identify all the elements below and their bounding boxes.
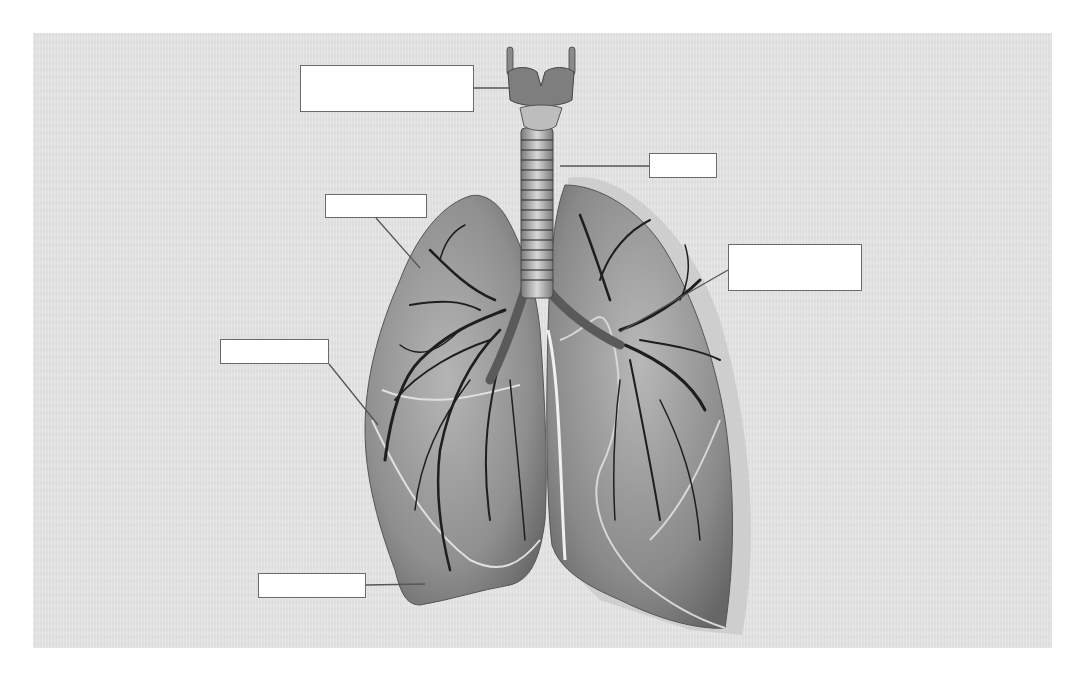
label-box-larynx[interactable] — [300, 65, 474, 112]
trachea — [521, 128, 553, 298]
label-box-bottom-left[interactable] — [258, 573, 366, 598]
label-box-upper-right[interactable] — [728, 244, 862, 291]
label-box-upper-left[interactable] — [325, 194, 427, 218]
label-box-mid-left[interactable] — [220, 339, 329, 364]
larynx — [507, 47, 575, 131]
label-box-trachea[interactable] — [649, 153, 717, 178]
respiratory-illustration — [0, 0, 1079, 677]
